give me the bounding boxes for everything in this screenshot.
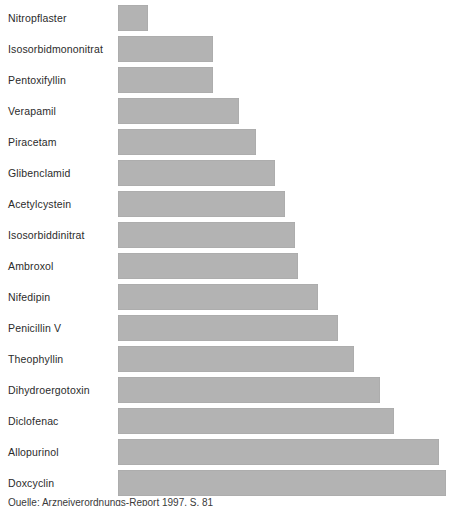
bar-track: [118, 408, 394, 434]
bar-category-label: Ambroxol: [8, 253, 54, 279]
bar-track: [118, 346, 354, 372]
bar-row: Isosorbidmononitrat: [0, 36, 454, 62]
bar-rect: [118, 470, 446, 496]
bar-category-label: Isosorbidmononitrat: [8, 36, 103, 62]
bar-row: Acetylcystein: [0, 191, 454, 217]
bar-track: [118, 470, 446, 496]
bar-track: [118, 160, 275, 186]
bar-row: Glibenclamid: [0, 160, 454, 186]
bar-rect: [118, 36, 213, 62]
caption-text: Quelle: Arzneiverordnungs-Report 1997, S…: [8, 497, 454, 506]
bar-row: Doxcyclin: [0, 470, 454, 496]
bar-row: Dihydroergotoxin: [0, 377, 454, 403]
bar-row: Allopurinol: [0, 439, 454, 465]
bar-row: Verapamil: [0, 98, 454, 124]
bar-rect: [118, 253, 298, 279]
chart-plot-area: NitropflasterIsosorbidmononitratPentoxif…: [0, 0, 454, 497]
bar-row: Ambroxol: [0, 253, 454, 279]
bar-rect: [118, 284, 318, 310]
bar-category-label: Isosorbiddinitrat: [8, 222, 85, 248]
bar-category-label: Theophyllin: [8, 346, 63, 372]
bar-track: [118, 129, 256, 155]
bar-chart-figure: NitropflasterIsosorbidmononitratPentoxif…: [0, 0, 454, 506]
bar-track: [118, 439, 439, 465]
bar-track: [118, 36, 213, 62]
bar-category-label: Glibenclamid: [8, 160, 71, 186]
bar-rect: [118, 191, 285, 217]
bar-rect: [118, 408, 394, 434]
bar-category-label: Doxcyclin: [8, 470, 54, 496]
bar-row: Nifedipin: [0, 284, 454, 310]
bar-row: Theophyllin: [0, 346, 454, 372]
bar-rect: [118, 222, 295, 248]
bar-rect: [118, 377, 380, 403]
bar-rect: [118, 5, 148, 31]
bar-category-label: Acetylcystein: [8, 191, 71, 217]
bar-category-label: Piracetam: [8, 129, 57, 155]
bar-rect: [118, 439, 439, 465]
bar-row: Diclofenac: [0, 408, 454, 434]
bar-row: Nitropflaster: [0, 5, 454, 31]
bar-rect: [118, 346, 354, 372]
bar-row: Isosorbiddinitrat: [0, 222, 454, 248]
bar-category-label: Nitropflaster: [8, 5, 67, 31]
bar-track: [118, 222, 295, 248]
bar-category-label: Allopurinol: [8, 439, 59, 465]
bar-rect: [118, 98, 239, 124]
bar-row: Penicillin V: [0, 315, 454, 341]
bar-track: [118, 98, 239, 124]
bar-rect: [118, 67, 213, 93]
bar-category-label: Nifedipin: [8, 284, 50, 310]
bar-track: [118, 191, 285, 217]
bar-category-label: Dihydroergotoxin: [8, 377, 90, 403]
chart-caption: Quelle: Arzneiverordnungs-Report 1997, S…: [8, 497, 454, 506]
bar-track: [118, 284, 318, 310]
bar-track: [118, 5, 148, 31]
bar-track: [118, 253, 298, 279]
bar-category-label: Pentoxifyllin: [8, 67, 66, 93]
bar-category-label: Diclofenac: [8, 408, 59, 434]
bar-row: Piracetam: [0, 129, 454, 155]
bar-rect: [118, 129, 256, 155]
bar-row: Pentoxifyllin: [0, 67, 454, 93]
bar-rect: [118, 160, 275, 186]
bar-track: [118, 315, 338, 341]
bar-track: [118, 377, 380, 403]
bar-category-label: Penicillin V: [8, 315, 61, 341]
bar-rect: [118, 315, 338, 341]
bar-category-label: Verapamil: [8, 98, 56, 124]
bar-track: [118, 67, 213, 93]
